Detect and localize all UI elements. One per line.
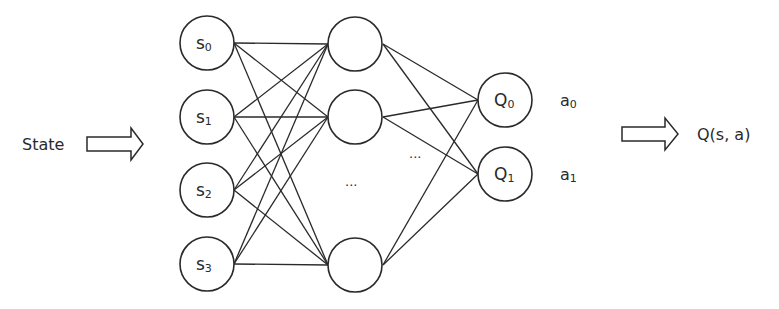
input-node-s2: s2 — [180, 163, 234, 217]
hidden-node-n — [328, 238, 382, 292]
output-layer: Q0 Q1 — [478, 73, 532, 201]
output-node-q1: Q1 — [478, 147, 532, 201]
edges-hidden-output — [383, 44, 478, 265]
state-label: State — [22, 135, 64, 154]
output-arrow-icon — [622, 118, 678, 150]
hidden-node-2 — [328, 90, 382, 144]
q-value-label: Q(s, a) — [697, 125, 750, 144]
action-label-a1: a1 — [560, 165, 577, 185]
dqn-diagram: State s0 s1 s2 s3 ... ... Q0 — [0, 0, 779, 309]
output-ellipsis: ... — [409, 146, 421, 161]
input-node-s1: s1 — [180, 90, 234, 144]
output-node-q0: Q0 — [478, 73, 532, 127]
input-node-s3: s3 — [180, 237, 234, 291]
action-label-a0: a0 — [560, 91, 577, 111]
state-arrow-icon — [87, 128, 143, 160]
input-node-s0: s0 — [180, 16, 234, 70]
hidden-ellipsis: ... — [345, 174, 357, 189]
edges-input-hidden — [234, 43, 328, 265]
hidden-layer: ... — [328, 17, 382, 292]
hidden-node-1 — [328, 17, 382, 71]
input-layer: s0 s1 s2 s3 — [180, 16, 234, 291]
